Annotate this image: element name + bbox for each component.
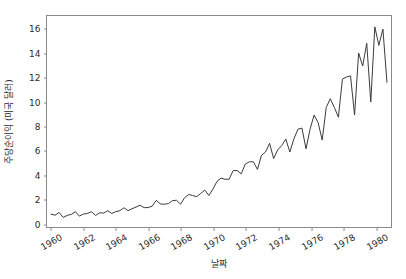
x-tick-mark [279,227,280,231]
y-tick-mark [44,151,48,152]
x-tick-mark [246,227,247,231]
x-tick-label: 1968 [170,233,194,252]
x-tick-1980: 1980 [365,227,388,242]
y-tick-label: 16 [29,25,43,34]
x-tick-label: 1978 [333,233,357,252]
y-tick-label: 6 [35,147,44,156]
x-tick-label: 1960 [40,233,64,252]
x-tick-mark [344,227,345,231]
y-tick-label: 8 [35,123,44,132]
y-tick-14: 14 [29,49,47,58]
x-tick-label: 1970 [203,233,227,252]
series-line-layer [47,16,391,227]
y-tick-label: 4 [35,171,44,180]
x-tick-label: 1974 [268,233,292,252]
x-tick-1966: 1966 [137,227,160,242]
x-tick-1978: 1978 [333,227,356,242]
plot-area: 0246810121416196019621964196619681970197… [46,15,392,228]
x-tick-1964: 1964 [105,227,128,242]
y-tick-2: 2 [35,196,47,205]
x-tick-label: 1962 [72,233,96,252]
y-axis-title: 주당순이익 (미국 달러) [2,15,16,228]
x-tick-label: 1966 [137,233,161,252]
y-tick-6: 6 [35,147,47,156]
y-tick-mark [44,102,48,103]
x-tick-mark [83,227,84,231]
y-tick-mark [44,200,48,201]
y-tick-label: 12 [29,74,43,83]
x-tick-label: 1964 [105,233,129,252]
x-tick-label: 1972 [235,233,259,252]
x-tick-1960: 1960 [40,227,63,242]
y-tick-mark [44,175,48,176]
x-axis-title-text: 날짜 [211,259,227,269]
x-tick-mark [116,227,117,231]
x-tick-1970: 1970 [202,227,225,242]
x-axis-title: 날짜 [46,260,392,269]
chart-figure: 주당순이익 (미국 달러) 02468101214161960196219641… [0,0,406,279]
x-tick-1968: 1968 [170,227,193,242]
y-tick-8: 8 [35,123,47,132]
x-tick-1972: 1972 [235,227,258,242]
x-tick-mark [311,227,312,231]
y-tick-mark [44,53,48,54]
y-tick-mark [44,29,48,30]
x-tick-label: 1976 [300,233,324,252]
series-line-earnings [51,27,387,218]
x-tick-mark [148,227,149,231]
x-tick-1962: 1962 [72,227,95,242]
x-tick-mark [376,227,377,231]
y-tick-label: 10 [29,98,43,107]
x-tick-mark [181,227,182,231]
x-tick-mark [51,227,52,231]
y-tick-10: 10 [29,98,47,107]
x-tick-1976: 1976 [300,227,323,242]
y-tick-label: 14 [29,49,43,58]
y-tick-12: 12 [29,74,47,83]
y-tick-label: 2 [35,196,44,205]
y-tick-4: 4 [35,171,47,180]
y-tick-mark [44,78,48,79]
x-tick-mark [213,227,214,231]
y-tick-mark [44,224,48,225]
y-tick-16: 16 [29,25,47,34]
y-axis-title-text: 주당순이익 (미국 달러) [5,79,14,164]
y-tick-mark [44,127,48,128]
x-tick-label: 1980 [365,233,389,252]
x-tick-1974: 1974 [268,227,291,242]
